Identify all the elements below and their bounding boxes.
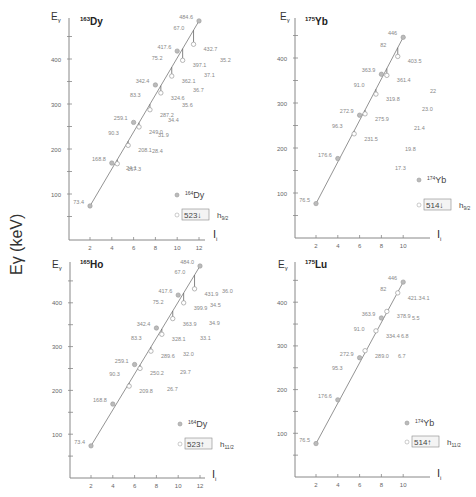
legend-filled-marker bbox=[175, 193, 179, 197]
open-point bbox=[137, 125, 141, 129]
filled-point bbox=[379, 316, 383, 320]
gap-label: 90.3 bbox=[109, 371, 120, 377]
y-tick-label: 100 bbox=[52, 432, 63, 438]
open-point-label: 250.2 bbox=[150, 370, 164, 376]
filled-point-label: 417.6 bbox=[158, 288, 172, 294]
gap-label: 91.0 bbox=[354, 82, 365, 88]
y-tick-label: 400 bbox=[51, 57, 62, 63]
y-axis-label: Eγ bbox=[52, 259, 62, 271]
legend-filled-marker bbox=[178, 422, 182, 426]
panel-top-right: 100200300400246810EγIi175Yb231.5275.9319… bbox=[277, 11, 471, 249]
open-point bbox=[374, 92, 378, 96]
x-tick-label: 2 bbox=[314, 243, 318, 249]
filled-point-label: 176.6 bbox=[318, 393, 332, 399]
x-tick-label: 10 bbox=[400, 482, 407, 488]
open-point-label: 324.6 bbox=[171, 95, 185, 101]
gap-label: 82 bbox=[380, 286, 386, 292]
filled-point bbox=[154, 326, 158, 330]
filled-point bbox=[314, 441, 318, 445]
y-tick-label: 100 bbox=[51, 192, 62, 198]
y-tick-label: 200 bbox=[277, 146, 288, 152]
x-axis-label: Ii bbox=[437, 467, 441, 481]
difference-label: 35.2 bbox=[220, 57, 231, 63]
difference-label: 37.1 bbox=[204, 72, 215, 78]
open-point-label: 289.0 bbox=[375, 353, 389, 359]
chart-canvas: 10020030040024681012EγIi163Dy167.3208.12… bbox=[0, 0, 476, 497]
difference-label: 34.9 bbox=[209, 320, 220, 326]
open-point bbox=[385, 309, 389, 313]
open-point-label: 334.4 bbox=[386, 333, 400, 339]
legend-box-label: 514↓ bbox=[426, 201, 443, 210]
open-point-label: 432.7 bbox=[204, 46, 218, 52]
filled-point bbox=[176, 293, 180, 297]
filled-point bbox=[336, 398, 340, 402]
filled-point-label: 363.9 bbox=[362, 67, 376, 73]
open-point bbox=[148, 108, 152, 112]
gap-label: 82 bbox=[380, 42, 386, 48]
legend-open-marker bbox=[175, 213, 179, 217]
open-point bbox=[385, 73, 389, 77]
difference-label: 19.8 bbox=[405, 146, 416, 152]
gap-label: 83.3 bbox=[130, 92, 141, 98]
x-tick-label: 6 bbox=[133, 483, 137, 489]
filled-point-label: 272.9 bbox=[340, 351, 354, 357]
gap-label: 75.2 bbox=[152, 55, 163, 61]
open-point-label: 397.1 bbox=[193, 62, 207, 68]
open-point-label: 319.8 bbox=[386, 96, 400, 102]
legend-open-marker bbox=[417, 203, 421, 207]
y-tick-label: 300 bbox=[277, 101, 288, 107]
y-tick-label: 400 bbox=[52, 300, 63, 306]
x-tick-label: 10 bbox=[400, 243, 407, 249]
open-point-label: 361.4 bbox=[397, 77, 411, 83]
filled-point-label: 168.8 bbox=[93, 397, 107, 403]
difference-label: 22 bbox=[430, 88, 436, 94]
panel-bottom-right: 100200300400246810EγIi175Lu289.0334.4378… bbox=[277, 259, 461, 488]
filled-point-label: 259.1 bbox=[114, 115, 128, 121]
y-tick-label: 200 bbox=[277, 387, 288, 393]
x-tick-label: 10 bbox=[174, 245, 181, 251]
legend-orbital-label: h9/2 bbox=[459, 201, 471, 211]
filled-point bbox=[175, 49, 179, 53]
gap-label: 67.0 bbox=[175, 269, 186, 275]
filled-point bbox=[357, 356, 361, 360]
panel-bottom-left: 10020030040024681012EγIi165Ho209.8250.22… bbox=[52, 259, 234, 489]
open-point-label: 209.8 bbox=[139, 388, 153, 394]
legend-filled-label: 164Dy bbox=[188, 419, 208, 429]
y-tick-label: 200 bbox=[52, 388, 63, 394]
filled-point-label: 259.1 bbox=[115, 358, 129, 364]
x-axis-label: Ii bbox=[213, 228, 217, 242]
open-point bbox=[126, 143, 130, 147]
y-tick-label: 400 bbox=[277, 300, 288, 306]
difference-label: 4.1 bbox=[422, 295, 430, 301]
difference-label: 31.9 bbox=[158, 132, 169, 138]
difference-label: 28.4 bbox=[152, 148, 163, 154]
legend-box-label: 523↓ bbox=[184, 211, 201, 220]
panel-title: 163Dy bbox=[80, 16, 103, 27]
y-tick-label: 100 bbox=[277, 431, 288, 437]
gap-label: 67.0 bbox=[174, 25, 185, 31]
x-tick-label: 12 bbox=[196, 245, 203, 251]
filled-point bbox=[197, 19, 201, 23]
open-point bbox=[160, 332, 164, 336]
difference-label: 36.7 bbox=[193, 87, 204, 93]
legend: 174Yb514↓h9/2 bbox=[417, 175, 471, 211]
filled-point-label: 76.5 bbox=[299, 197, 310, 203]
filled-point bbox=[132, 362, 136, 366]
fit-line bbox=[316, 37, 403, 203]
gap-label: 91.0 bbox=[354, 326, 365, 332]
filled-point-label: 76.5 bbox=[299, 437, 310, 443]
difference-label: 6.7 bbox=[398, 353, 406, 359]
panel-title: 175Lu bbox=[305, 259, 327, 270]
difference-label: 24.1 bbox=[126, 165, 137, 171]
filled-point bbox=[379, 72, 383, 76]
open-point-label: 431.9 bbox=[205, 291, 219, 297]
gap-label: 83.3 bbox=[131, 335, 142, 341]
open-point bbox=[192, 287, 196, 291]
gap-label: 90.3 bbox=[108, 130, 119, 136]
y-tick-label: 400 bbox=[277, 56, 288, 62]
x-tick-label: 2 bbox=[89, 483, 93, 489]
y-tick-label: 300 bbox=[277, 343, 288, 349]
open-point bbox=[396, 291, 400, 295]
filled-point bbox=[314, 201, 318, 205]
open-point bbox=[159, 91, 163, 95]
